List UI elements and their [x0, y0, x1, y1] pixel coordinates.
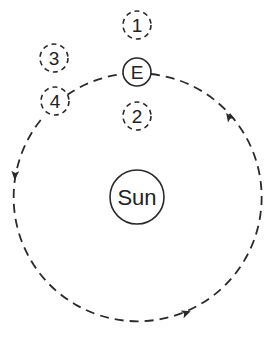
position-2: 2: [123, 102, 151, 130]
sun-label: Sun: [117, 185, 156, 210]
position-1: 1: [123, 11, 151, 39]
orbit-path-segment: [67, 74, 123, 95]
position-4-label: 4: [50, 91, 61, 112]
earth-label: E: [131, 62, 144, 83]
orbit-arrow-left: [11, 171, 20, 181]
position-1-label: 1: [132, 15, 143, 36]
arrowhead-icon: [11, 171, 20, 181]
orbit-diagram: Sun E 1 2 3 4: [0, 0, 267, 343]
position-3-label: 3: [49, 48, 60, 69]
position-2-label: 2: [132, 106, 143, 127]
position-4: 4: [41, 87, 69, 115]
position-3: 3: [40, 44, 68, 72]
earth: E: [123, 58, 151, 86]
sun: Sun: [110, 170, 164, 224]
